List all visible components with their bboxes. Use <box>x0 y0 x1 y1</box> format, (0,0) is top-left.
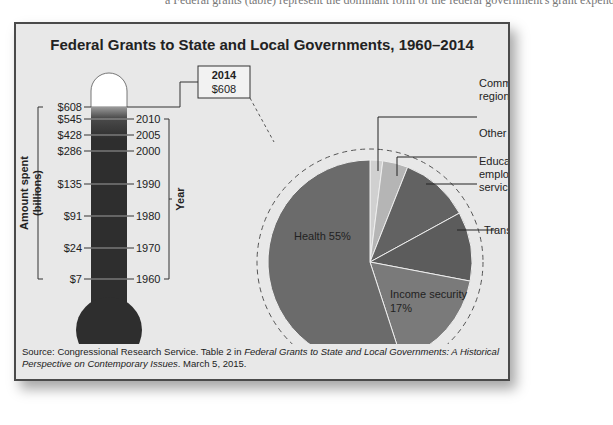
year-label: 1970 <box>136 242 160 254</box>
year-label: 1960 <box>136 273 160 285</box>
source-note: Source: Congressional Research Service. … <box>22 346 502 370</box>
thermometer-empty-top <box>91 73 127 107</box>
year-axis-label: Year <box>174 187 186 211</box>
page-header-fragment: a Federal grants (table) represent the d… <box>0 0 613 14</box>
year-label: 2010 <box>136 113 160 125</box>
label-community-2: regional development 2% <box>479 90 508 102</box>
callout-amount: $608 <box>212 83 236 95</box>
label-other: Other 4% <box>479 127 508 139</box>
chart-canvas: $608 $545 $428 $286 $135 $91 $24 $7 2010… <box>16 24 508 344</box>
label-income-pct: 17% <box>390 302 412 314</box>
amount-label: $545 <box>58 113 82 125</box>
label-education-2: employment, and social <box>479 168 508 180</box>
amount-label: $428 <box>58 129 82 141</box>
label-community: Community and <box>479 77 508 89</box>
label-education-3: services 11% <box>479 181 508 193</box>
chart-panel: Federal Grants to State and Local Govern… <box>14 22 510 381</box>
callout-year: 2014 <box>212 69 237 81</box>
pie-chart: Health 55% Income security 17% <box>257 117 496 344</box>
amount-axis-label: Amount spent <box>18 156 30 230</box>
amount-axis-label-sub: (billions) <box>31 170 43 216</box>
year-label: 2000 <box>136 145 160 157</box>
year-bracket <box>164 119 169 279</box>
amount-label: $24 <box>64 242 82 254</box>
label-income: Income security <box>390 288 468 300</box>
year-label: 1990 <box>136 178 160 190</box>
amount-label: $286 <box>58 145 82 157</box>
thermometer-fill <box>91 139 127 324</box>
label-transportation: Transportation 11% <box>484 224 508 236</box>
year-label: 2005 <box>136 129 160 141</box>
thermometer-bulb <box>76 297 142 344</box>
pie-outside-labels: Community and regional development 2% Ot… <box>479 77 508 236</box>
label-education: Education, training, <box>479 155 508 167</box>
amount-label: $608 <box>58 101 82 113</box>
label-health: Health 55% <box>294 230 351 242</box>
year-label: 1980 <box>136 210 160 222</box>
thermometer-gradient <box>91 107 127 139</box>
amount-label: $7 <box>70 273 82 285</box>
amount-label: $91 <box>64 210 82 222</box>
amount-label: $135 <box>58 178 82 190</box>
thermometer: $608 $545 $428 $286 $135 $91 $24 $7 2010… <box>18 66 274 344</box>
